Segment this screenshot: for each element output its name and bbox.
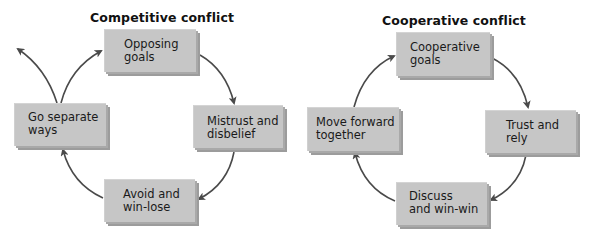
competitive-conflict-title: Competitive conflict [90, 10, 234, 25]
node-label-line1: Go separate [28, 111, 98, 124]
node-label-line2: disbelief [207, 128, 255, 141]
arrow-opposing-to-mistrust [200, 55, 234, 103]
node-move-forward-together: Move forward together [307, 107, 399, 151]
node-label-line2: together [316, 129, 366, 142]
cooperative-conflict-title: Cooperative conflict [382, 13, 526, 28]
node-label-line2: and win-win [409, 203, 478, 216]
node-label-line2: ways [28, 124, 57, 137]
node-mistrust-and-disbelief: Mistrust and disbelief [193, 105, 283, 148]
node-label-line2: goals [124, 51, 155, 64]
node-label-line2: rely [506, 132, 528, 145]
node-label-line2: win-lose [123, 201, 170, 214]
node-opposing-goals: Opposing goals [104, 29, 196, 72]
arrow-trust-to-discuss [491, 155, 526, 200]
node-go-separate-ways: Go separate ways [14, 103, 106, 146]
arrow-mistrust-to-avoid [199, 152, 234, 199]
node-label-line1: Cooperative [410, 41, 480, 54]
arrow-separate-to-opposing [61, 51, 101, 103]
arrow-coopgoals-to-trust [492, 58, 528, 107]
arrow-discuss-to-forward [355, 153, 395, 201]
node-label-line2: goals [410, 54, 441, 67]
node-label-line1: Mistrust and [207, 115, 278, 128]
arrow-forward-to-coopgoals [354, 56, 394, 107]
arrow-avoid-to-separate [63, 150, 103, 198]
node-label-line1: Avoid and [123, 188, 180, 201]
node-cooperative-goals: Cooperative goals [396, 32, 490, 76]
node-label-line1: Move forward [316, 116, 395, 129]
node-label-line1: Trust and [506, 119, 559, 132]
node-trust-and-rely: Trust and rely [485, 110, 576, 153]
node-avoid-and-win-lose: Avoid and win-lose [104, 179, 195, 222]
node-discuss-and-win-win: Discuss and win-win [396, 182, 487, 225]
node-label-line1: Opposing [124, 38, 178, 51]
node-label-line1: Discuss [409, 190, 453, 203]
arrow-separate-exit [18, 49, 57, 103]
